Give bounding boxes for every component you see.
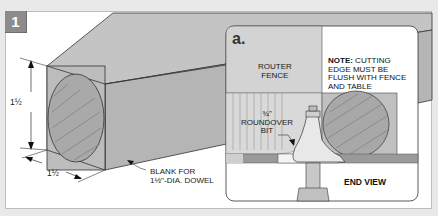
cutting-edge-note: NOTE: CUTTING EDGE MUST BE FLUSH WITH FE…	[328, 57, 406, 91]
note-heading: NOTE:	[328, 56, 353, 65]
dowel-section-circle	[323, 91, 389, 157]
note-line1: CUTTING	[353, 56, 391, 65]
note-line4: AND TABLE	[328, 83, 406, 92]
router-fence-label: ROUTER FENCE	[258, 63, 292, 80]
step-number-badge: 1	[5, 11, 27, 33]
width-dimension: 1½	[47, 168, 59, 178]
height-dimension: 1½	[10, 97, 22, 107]
blank-label-line2: 1½"-DIA. DOWEL	[150, 177, 214, 186]
roundover-bit-label: ¾" ROUNDOVER BIT	[241, 110, 293, 136]
collet-nut	[297, 188, 329, 201]
bit-label-line3: BIT	[241, 127, 293, 136]
dowel-end-circle	[48, 74, 104, 162]
inset-letter: a.	[232, 30, 245, 48]
blank-label: BLANK FOR 1½"-DIA. DOWEL	[150, 168, 214, 185]
bit-shank	[306, 163, 320, 191]
fence-label-line2: FENCE	[258, 72, 292, 81]
end-view-label: END VIEW	[344, 177, 386, 187]
arrow-up-icon	[28, 60, 34, 68]
arrow-right-icon	[74, 174, 82, 179]
arrow-left-icon	[25, 157, 33, 162]
